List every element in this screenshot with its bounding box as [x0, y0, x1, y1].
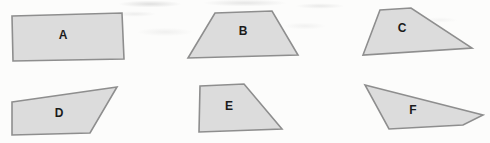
shape-e-trapezoid [199, 84, 282, 132]
shapes-figure: A B C D E F [0, 0, 490, 143]
shape-e-label: E [225, 99, 233, 113]
shape-d-quadrilateral [12, 87, 117, 135]
shape-d: D [12, 87, 117, 135]
shape-b-label: B [239, 24, 248, 38]
shape-c-label: C [398, 21, 407, 35]
shape-b: B [188, 11, 298, 58]
shapes-canvas: A B C D E F [0, 0, 490, 143]
shape-d-label: D [55, 106, 64, 120]
shape-f-quadrilateral [365, 85, 483, 129]
shape-e: E [199, 84, 282, 132]
shape-c-quadrilateral [363, 8, 472, 55]
shape-a: A [12, 13, 124, 61]
shape-f-label: F [409, 103, 416, 117]
shape-c: C [363, 8, 472, 55]
shape-a-rectangle [12, 13, 124, 61]
shape-a-label: A [59, 28, 68, 42]
shape-f: F [365, 85, 483, 129]
